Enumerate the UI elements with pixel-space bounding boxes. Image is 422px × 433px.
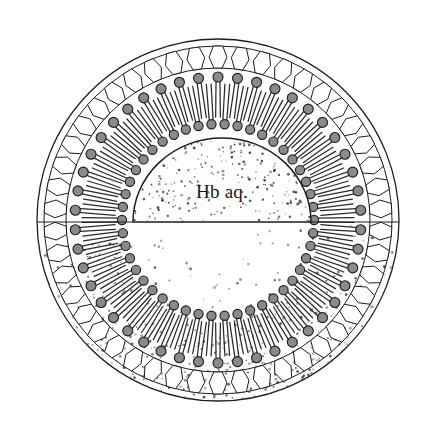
stipple-dot bbox=[149, 193, 150, 194]
stipple-dot bbox=[308, 216, 311, 219]
lipid-head bbox=[96, 133, 106, 143]
stipple-dot bbox=[194, 203, 196, 205]
lipid-head bbox=[125, 177, 134, 186]
stipple-dot bbox=[349, 327, 352, 330]
stipple-dot bbox=[162, 164, 165, 167]
stipple-dot bbox=[272, 242, 274, 244]
stipple-dot bbox=[158, 175, 161, 178]
lipid-head bbox=[70, 225, 80, 235]
stipple-dot bbox=[268, 368, 271, 371]
stipple-dot bbox=[330, 338, 332, 340]
stipple-dot bbox=[337, 271, 340, 274]
lipid-head bbox=[73, 186, 83, 196]
stipple-dot bbox=[250, 388, 252, 390]
stipple-dot bbox=[140, 334, 143, 337]
stipple-dot bbox=[287, 173, 290, 176]
stipple-dot bbox=[300, 201, 303, 204]
lipid-head bbox=[181, 125, 190, 134]
lipid-head bbox=[213, 358, 223, 368]
stipple-dot bbox=[269, 213, 271, 215]
stipple-dot bbox=[211, 141, 212, 142]
lipid-head bbox=[96, 297, 106, 307]
lipid-head bbox=[207, 311, 216, 320]
stipple-dot bbox=[184, 379, 187, 382]
stipple-dot bbox=[270, 363, 272, 365]
stipple-dot bbox=[131, 246, 133, 248]
stipple-dot bbox=[240, 152, 242, 154]
stipple-dot bbox=[341, 350, 343, 352]
lipid-head bbox=[301, 177, 310, 186]
stipple-dot bbox=[299, 329, 302, 332]
stipple-dot bbox=[178, 345, 180, 347]
lipid-head bbox=[169, 301, 178, 310]
stipple-dot bbox=[176, 173, 177, 174]
lipid-head bbox=[279, 145, 288, 154]
stipple-dot bbox=[149, 194, 151, 196]
stipple-dot bbox=[310, 372, 312, 374]
stipple-dot bbox=[256, 186, 259, 189]
stipple-dot bbox=[222, 178, 224, 180]
stipple-dot bbox=[277, 218, 279, 220]
stipple-dot bbox=[214, 214, 216, 216]
stipple-dot bbox=[309, 369, 311, 371]
stipple-dot bbox=[241, 176, 243, 178]
stipple-dot bbox=[167, 215, 169, 217]
stipple-dot bbox=[152, 197, 153, 198]
stipple-dot bbox=[135, 213, 136, 214]
stipple-dot bbox=[312, 353, 314, 355]
stipple-dot bbox=[215, 285, 216, 286]
stipple-dot bbox=[158, 209, 160, 211]
stipple-dot bbox=[222, 170, 225, 173]
stipple-dot bbox=[242, 160, 245, 163]
stipple-dot bbox=[264, 353, 266, 355]
stipple-dot bbox=[222, 348, 223, 349]
stipple-dot bbox=[233, 151, 235, 153]
stipple-dot bbox=[159, 181, 161, 183]
stipple-dot bbox=[146, 356, 148, 358]
stipple-dot bbox=[296, 332, 299, 335]
lipid-head bbox=[318, 117, 328, 127]
stipple-dot bbox=[134, 210, 136, 212]
lipid-head bbox=[340, 281, 350, 291]
lipid-head bbox=[340, 149, 350, 159]
stipple-dot bbox=[187, 325, 188, 326]
stipple-dot bbox=[252, 191, 254, 193]
stipple-dot bbox=[171, 184, 173, 186]
stipple-dot bbox=[128, 323, 129, 324]
stipple-dot bbox=[194, 176, 196, 178]
lipid-head bbox=[356, 205, 366, 215]
stipple-dot bbox=[221, 160, 222, 161]
stipple-dot bbox=[262, 355, 264, 357]
stipple-dot bbox=[182, 194, 183, 195]
stipple-dot bbox=[180, 194, 182, 196]
lipid-head bbox=[118, 228, 127, 237]
stipple-dot bbox=[134, 219, 136, 221]
lipid-head bbox=[295, 265, 304, 274]
stipple-dot bbox=[201, 143, 203, 145]
stipple-dot bbox=[273, 202, 275, 204]
lipid-head bbox=[258, 301, 267, 310]
stipple-dot bbox=[180, 180, 182, 182]
stipple-dot bbox=[326, 291, 328, 293]
stipple-dot bbox=[287, 244, 289, 246]
stipple-dot bbox=[77, 330, 78, 331]
stipple-dot bbox=[261, 362, 263, 364]
stipple-dot bbox=[119, 355, 122, 358]
stipple-dot bbox=[318, 331, 319, 332]
stipple-dot bbox=[149, 208, 151, 210]
stipple-dot bbox=[284, 194, 285, 195]
stipple-dot bbox=[217, 284, 218, 285]
stipple-dot bbox=[143, 378, 145, 380]
lipid-head bbox=[156, 346, 166, 356]
stipple-dot bbox=[154, 282, 157, 285]
stipple-dot bbox=[187, 169, 189, 171]
lipid-head bbox=[220, 311, 229, 320]
stipple-dot bbox=[219, 300, 221, 302]
stipple-dot bbox=[188, 363, 190, 365]
stipple-dot bbox=[327, 337, 328, 338]
lipid-head bbox=[220, 120, 229, 129]
stipple-dot bbox=[191, 183, 192, 184]
stipple-dot bbox=[227, 383, 230, 386]
stipple-dot bbox=[143, 198, 146, 201]
stipple-dot bbox=[284, 328, 285, 329]
